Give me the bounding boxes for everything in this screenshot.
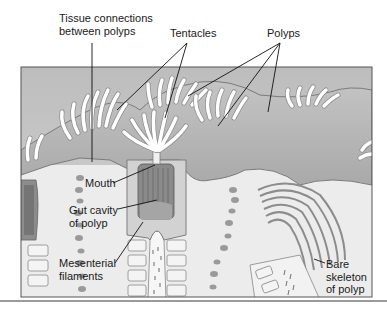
mesenterial-filaments	[140, 202, 172, 220]
bottom-divider	[0, 300, 387, 302]
label-polyps: Polyps	[267, 27, 300, 40]
central-skeleton	[148, 231, 166, 300]
label-gut-cavity: Gut cavity of polyp	[69, 204, 118, 229]
label-mesenterial: Mesenterial filaments	[59, 257, 116, 282]
label-tissue-connections: Tissue connections between polyps	[59, 12, 153, 37]
label-bare-skeleton: Bare skeleton of polyp	[326, 258, 367, 296]
label-tentacles: Tentacles	[170, 27, 216, 40]
label-mouth: Mouth	[85, 177, 116, 190]
